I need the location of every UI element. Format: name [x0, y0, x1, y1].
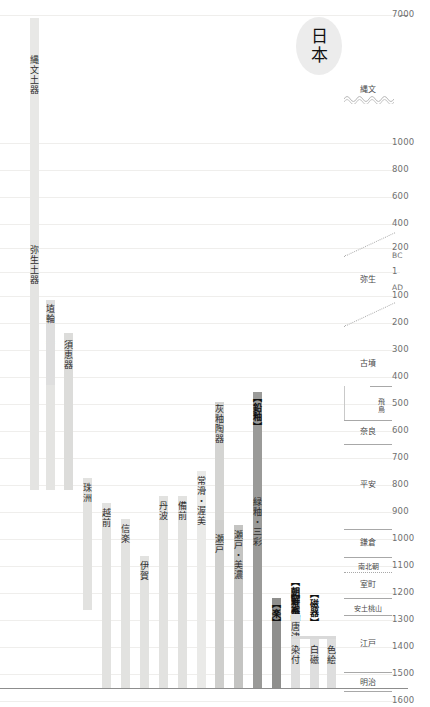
- era-divider: [344, 444, 392, 445]
- axis-tick-label: 400: [392, 372, 409, 381]
- era-divider: [344, 672, 392, 673]
- era-band-kamakura[interactable]: 鎌倉: [344, 535, 392, 548]
- gridline: [0, 404, 400, 405]
- era-divider: [344, 572, 392, 573]
- bar-label: 丹波: [158, 501, 168, 521]
- axis-tick-label: 900: [392, 507, 409, 516]
- bar-label: 【鉛釉】: [252, 393, 262, 431]
- era-divider: [344, 529, 392, 530]
- bar-label: 珠洲: [82, 483, 92, 503]
- era-band-kofun[interactable]: 古墳: [344, 356, 392, 369]
- axis-tick-label: BC: [392, 251, 403, 260]
- era-band-asuka[interactable]: 飛鳥: [370, 390, 392, 420]
- era-band-meiji[interactable]: 明治: [344, 675, 392, 688]
- era-diagonal-boundary: [344, 232, 395, 257]
- axis-tick-label: 300: [392, 345, 409, 354]
- bar-label: 色絵: [326, 645, 336, 665]
- bar-label: 常滑・渥美: [196, 476, 206, 526]
- timeline-bar[interactable]: [121, 519, 130, 688]
- axis-tick-label: 1300: [392, 615, 414, 624]
- gridline: [0, 350, 400, 351]
- ceramics-timeline-chart: 縄文土器弥生土器土師器埴輪須恵器珠洲越前信楽伊賀丹波備前常滑・渥美灰釉陶器瀬戸瀬…: [0, 0, 430, 707]
- bar-label: 白磁: [309, 645, 319, 665]
- gridline: [0, 248, 400, 249]
- era-band-edo[interactable]: 江戸: [344, 636, 392, 649]
- chart-title-bubble: 日本: [296, 17, 342, 75]
- axis-tick-label: 600: [392, 192, 409, 201]
- axis-tick-label: 1000: [392, 534, 414, 543]
- porcelain-bracket: [291, 636, 336, 639]
- era-divider: [344, 420, 392, 421]
- page-title: 日本: [307, 27, 332, 65]
- gridline: [0, 197, 400, 198]
- axis-tick-label: 1500: [392, 669, 414, 678]
- axis-tick-label: 7000: [392, 10, 414, 19]
- axis-tick-label: 600: [392, 426, 409, 435]
- era-divider: [344, 557, 392, 558]
- era-band-yayoi[interactable]: 弥生: [344, 272, 392, 285]
- bar-label: 弥生土器: [29, 245, 39, 285]
- axis-tick-label: 1400: [392, 642, 414, 651]
- bar-label: 信楽: [120, 524, 130, 544]
- era-divider: [344, 615, 392, 616]
- axis-tick-label: 400: [392, 219, 409, 228]
- scale-break-wave-icon: [344, 92, 394, 104]
- gridline: [0, 143, 400, 144]
- era-band-nara[interactable]: 奈良: [344, 424, 392, 437]
- era-band-azuchi-momoyama[interactable]: 安土桃山: [344, 601, 392, 614]
- bar-label: 染付: [290, 645, 300, 665]
- gridline: [0, 323, 400, 324]
- gridline: [0, 458, 400, 459]
- gridline: [0, 272, 400, 273]
- era-diagonal-boundary: [344, 302, 395, 327]
- era-divider-asuka: [370, 386, 392, 387]
- era-column: 縄文弥生古墳飛鳥奈良平安鎌倉南北朝室町安土桃山江戸明治: [344, 0, 392, 707]
- timeline-bar[interactable]: [102, 503, 111, 688]
- bar-label: 灰釉陶器: [214, 404, 224, 444]
- bar-label: 須恵器: [63, 340, 73, 370]
- axis-tick-label: 100: [392, 291, 409, 300]
- gridline: [0, 431, 400, 432]
- bar-label: 埴輪: [45, 304, 55, 324]
- gridline: [0, 701, 400, 702]
- gridline: [0, 170, 400, 171]
- timeline-bar[interactable]: [178, 496, 187, 688]
- era-band-nanbokucho[interactable]: 南北朝: [344, 559, 392, 572]
- era-band-muromachi[interactable]: 室町: [344, 577, 392, 590]
- gridline: [0, 296, 400, 297]
- axis-tick-label: 500: [392, 399, 409, 408]
- axis-tick-label: 800: [392, 165, 409, 174]
- gridline: [0, 15, 400, 16]
- axis-tick-label: 1200: [392, 588, 414, 597]
- bar-label: 緑釉・三彩: [252, 497, 262, 547]
- asuka-left-border: [344, 386, 345, 420]
- era-divider: [344, 598, 392, 599]
- era-band-heian[interactable]: 平安: [344, 477, 392, 490]
- bar-label: 縄文土器: [29, 55, 39, 95]
- gridline: [0, 377, 400, 378]
- axis-tick-label: 200: [392, 318, 409, 327]
- bar-label: 伊賀: [139, 561, 149, 581]
- bar-label: 備前: [177, 501, 187, 521]
- bar-label: 【磁器】: [309, 589, 319, 627]
- bar-label: 越前: [101, 508, 111, 528]
- axis-tick-label: 1: [392, 267, 398, 276]
- axis-tick-label: 1100: [392, 561, 414, 570]
- bar-label: 【楽】: [271, 599, 281, 628]
- timeline-bar[interactable]: [159, 496, 168, 688]
- axis-tick-label: 800: [392, 480, 409, 489]
- gridline: [0, 224, 400, 225]
- bar-label: 瀬戸・美濃: [233, 530, 243, 580]
- axis-tick-label: 1600: [392, 696, 414, 705]
- bar-label: 瀬戸: [214, 534, 224, 554]
- axis-tick-label: 700: [392, 453, 409, 462]
- axis-tick-label: 1000: [392, 138, 414, 147]
- era-divider: [344, 691, 392, 692]
